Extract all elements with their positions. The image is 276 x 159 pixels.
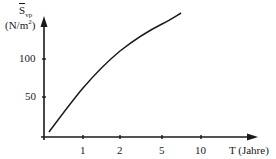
x-axis-arrow-icon <box>247 134 258 141</box>
y-axis-label-unit: (N/m2) <box>5 19 35 31</box>
y-unit-suffix: ) <box>32 19 36 31</box>
x-axis-label: T (Jahre) <box>229 145 269 156</box>
data-line-svp <box>49 13 181 132</box>
y-axis-arrow-icon <box>41 16 48 27</box>
x-tick-label-2: 2 <box>117 145 123 156</box>
y-tick-label-100: 100 <box>19 53 36 64</box>
x-tick-label-10: 10 <box>195 145 206 156</box>
chart-canvas <box>0 0 276 159</box>
y-tick-label-50: 50 <box>25 91 36 102</box>
x-tick-label-5: 5 <box>159 145 165 156</box>
y-unit-prefix: (N/m <box>5 19 28 31</box>
x-tick-label-1: 1 <box>80 145 86 156</box>
